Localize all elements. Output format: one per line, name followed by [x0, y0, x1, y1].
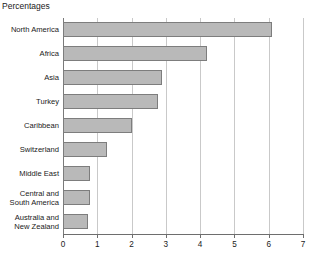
bar-row	[63, 210, 303, 234]
category-label: Australia and New Zealand	[0, 213, 59, 232]
category-label: Asia	[0, 73, 59, 82]
x-tick-2	[132, 235, 133, 238]
category-label: Turkey	[0, 97, 59, 106]
x-tick-6	[269, 235, 270, 238]
bar-row	[63, 114, 303, 138]
x-tick-3	[166, 235, 167, 238]
bar-chart: Percentages North AmericaAfricaAsiaTurke…	[0, 0, 321, 261]
category-labels: North AmericaAfricaAsiaTurkeyCaribbeanSw…	[0, 18, 59, 234]
bar-row	[63, 138, 303, 162]
category-label: Africa	[0, 49, 59, 58]
x-tick-4	[200, 235, 201, 238]
x-tick-label-3: 3	[156, 240, 176, 250]
x-tick-5	[234, 235, 235, 238]
bar-row	[63, 18, 303, 42]
bar[interactable]	[63, 190, 90, 205]
bar[interactable]	[63, 118, 132, 133]
bar[interactable]	[63, 46, 207, 61]
bar-row	[63, 186, 303, 210]
x-tick-label-5: 5	[224, 240, 244, 250]
bar-row	[63, 42, 303, 66]
bar[interactable]	[63, 70, 162, 85]
x-tick-label-2: 2	[122, 240, 142, 250]
bar[interactable]	[63, 94, 158, 109]
x-tick-label-6: 6	[259, 240, 279, 250]
gridline-7	[303, 18, 304, 234]
category-label: Switzerland	[0, 145, 59, 154]
bar[interactable]	[63, 142, 107, 157]
category-label: Middle East	[0, 169, 59, 178]
bar-row	[63, 66, 303, 90]
bar[interactable]	[63, 22, 272, 37]
bars-layer	[63, 18, 303, 234]
category-label: North America	[0, 25, 59, 34]
x-tick-label-7: 7	[293, 240, 313, 250]
bar[interactable]	[63, 214, 88, 229]
bar[interactable]	[63, 166, 90, 181]
x-tick-label-4: 4	[190, 240, 210, 250]
category-label: Caribbean	[0, 121, 59, 130]
bar-row	[63, 90, 303, 114]
x-tick-1	[97, 235, 98, 238]
category-label: Central and South America	[0, 189, 59, 208]
x-tick-0	[63, 235, 64, 238]
x-tick-label-1: 1	[87, 240, 107, 250]
bar-row	[63, 162, 303, 186]
chart-title: Percentages	[2, 1, 50, 12]
x-tick-7	[303, 235, 304, 238]
x-tick-label-0: 0	[53, 240, 73, 250]
